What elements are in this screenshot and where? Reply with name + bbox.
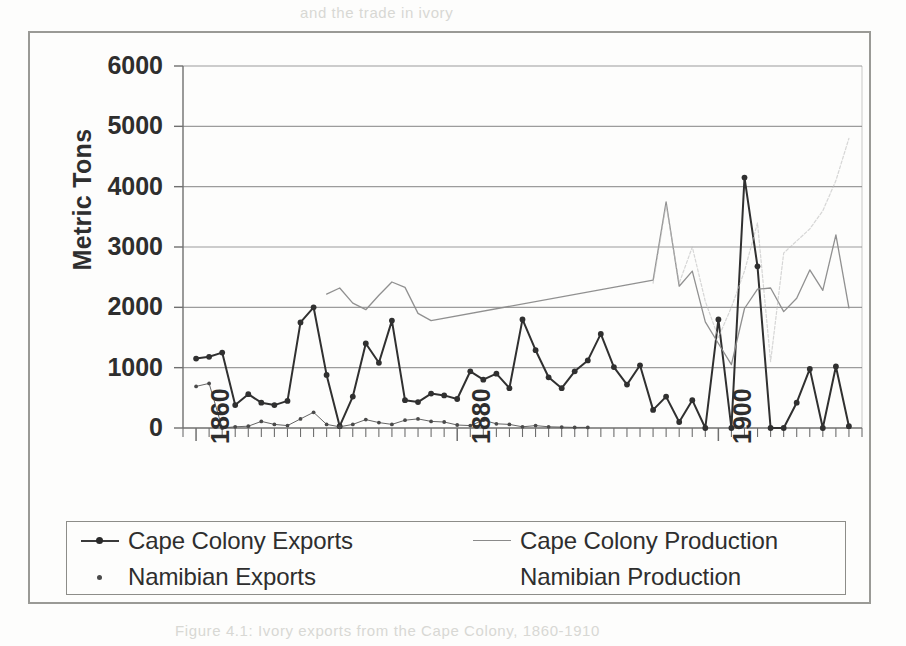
data-point	[246, 424, 250, 428]
y-tick-label: 6000	[71, 53, 163, 78]
data-point	[467, 368, 473, 374]
data-point	[258, 400, 264, 406]
data-point	[807, 366, 813, 372]
data-point	[273, 423, 277, 427]
data-point	[624, 382, 630, 388]
data-point	[572, 368, 578, 374]
data-point	[547, 425, 551, 429]
x-tick-label: 1880	[469, 388, 494, 444]
x-tick-label: 1900	[730, 388, 755, 444]
data-point	[742, 175, 748, 181]
data-point	[794, 400, 800, 406]
series-namibian-production	[653, 138, 849, 361]
data-point	[376, 360, 382, 366]
data-point	[206, 354, 212, 360]
data-point	[245, 391, 251, 397]
data-point	[586, 426, 590, 430]
data-point	[428, 391, 434, 397]
data-point	[351, 423, 355, 427]
data-point	[298, 320, 304, 326]
data-point	[494, 371, 500, 377]
y-tick-label: 3000	[71, 234, 163, 259]
x-tick-label: 1860	[208, 388, 233, 444]
data-point	[716, 317, 722, 323]
data-point	[833, 364, 839, 370]
legend-marker-plain-line-icon	[471, 532, 513, 550]
series-line	[327, 202, 849, 365]
data-point	[389, 318, 395, 324]
data-point	[520, 317, 526, 323]
y-tick-label: 5000	[71, 113, 163, 138]
data-point	[272, 402, 278, 408]
series-namibian-exports	[194, 382, 589, 430]
data-point	[363, 341, 369, 347]
legend-item-namibian-exports: Namibian Exports	[79, 560, 316, 594]
data-point	[559, 385, 565, 391]
data-point	[495, 422, 499, 426]
legend-item-cape-colony-exports: Cape Colony Exports	[79, 524, 353, 558]
data-point	[454, 396, 460, 402]
legend-label-namibian-exports: Namibian Exports	[128, 563, 316, 591]
data-point	[521, 425, 525, 429]
y-tick-label: 4000	[71, 174, 163, 199]
data-point	[311, 304, 317, 310]
data-point	[285, 398, 291, 404]
series-line	[653, 138, 849, 361]
legend-marker-blank-icon	[471, 568, 513, 586]
data-point	[377, 421, 381, 425]
data-point	[507, 385, 513, 391]
data-point	[455, 423, 459, 427]
data-point	[560, 425, 564, 429]
data-point	[350, 394, 356, 400]
data-point	[480, 377, 486, 383]
data-point	[338, 425, 342, 429]
data-point	[598, 331, 604, 337]
data-point	[429, 420, 433, 424]
y-tick-label: 1000	[71, 355, 163, 380]
data-point	[259, 420, 263, 424]
data-point	[533, 347, 539, 353]
legend-label-cape-colony-production: Cape Colony Production	[520, 527, 778, 555]
data-point	[846, 423, 852, 429]
data-point	[611, 364, 617, 370]
data-point	[207, 382, 211, 386]
data-point	[403, 418, 407, 422]
data-point	[312, 410, 316, 414]
data-point	[416, 417, 420, 421]
data-point	[768, 425, 774, 431]
y-tick-label: 0	[71, 415, 163, 440]
data-point	[219, 350, 225, 356]
data-point	[663, 394, 669, 400]
legend-item-cape-colony-production: Cape Colony Production	[471, 524, 778, 558]
y-tick-label: 2000	[71, 294, 163, 319]
data-point	[573, 426, 577, 430]
data-point	[441, 393, 447, 399]
data-point	[286, 424, 290, 428]
legend-marker-dot-icon	[79, 568, 121, 586]
data-point	[702, 425, 708, 431]
data-point	[324, 372, 330, 378]
data-point	[390, 423, 394, 427]
data-point	[585, 358, 591, 364]
data-point	[637, 362, 643, 368]
legend-marker-line-with-markers-icon	[79, 532, 121, 550]
legend-label-cape-colony-exports: Cape Colony Exports	[128, 527, 353, 555]
data-point	[193, 356, 199, 362]
data-point	[415, 399, 421, 405]
data-point	[534, 424, 538, 428]
data-point	[676, 419, 682, 425]
data-point	[402, 397, 408, 403]
data-point	[194, 385, 198, 389]
legend-item-namibian-production: Namibian Production	[471, 560, 741, 594]
data-point	[781, 425, 787, 431]
chart-legend: Cape Colony Exports Cape Colony Producti…	[66, 521, 846, 595]
data-point	[299, 417, 303, 421]
data-point	[442, 420, 446, 424]
series-cape-colony-production	[327, 202, 849, 365]
data-point	[650, 407, 656, 413]
data-point	[689, 397, 695, 403]
data-point	[546, 374, 552, 380]
data-point	[755, 263, 761, 269]
data-point	[820, 425, 826, 431]
data-point	[364, 418, 368, 422]
